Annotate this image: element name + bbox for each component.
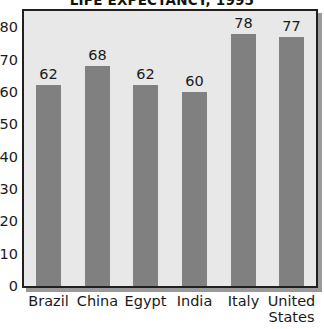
bar-china [85, 66, 110, 286]
y-tick-label: 70 [0, 53, 18, 68]
x-label-line: United [259, 293, 324, 309]
bar-value-label: 77 [269, 18, 315, 34]
y-tick-label: 80 [0, 20, 18, 35]
y-tick-label: 40 [0, 150, 18, 165]
bar-value-label: 60 [172, 73, 218, 89]
bar-value-label: 68 [75, 47, 121, 63]
bar-india [182, 92, 207, 286]
bar-united-states [279, 37, 304, 286]
bar-italy [231, 34, 256, 286]
bar-egypt [133, 85, 158, 286]
y-tick-label: 50 [0, 117, 18, 132]
y-tick-label: 0 [0, 279, 18, 294]
x-label-line: States [259, 309, 324, 325]
x-axis-label-united-states: UnitedStates [259, 293, 324, 325]
y-tick-label: 60 [0, 85, 18, 100]
chart-title: LIFE EXPECTANCY, 1995 [0, 0, 324, 8]
plot-area [22, 9, 318, 288]
bar-value-label: 62 [26, 66, 72, 82]
y-tick-label: 10 [0, 247, 18, 262]
y-tick-label: 30 [0, 182, 18, 197]
bars-layer [24, 11, 316, 286]
bar-brazil [36, 85, 61, 286]
bar-value-label: 78 [221, 15, 267, 31]
bar-value-label: 62 [123, 66, 169, 82]
y-axis: 01020304050607080 [0, 0, 18, 329]
y-tick-label: 20 [0, 214, 18, 229]
chart-screenshot: LIFE EXPECTANCY, 1995 01020304050607080 … [0, 0, 324, 329]
